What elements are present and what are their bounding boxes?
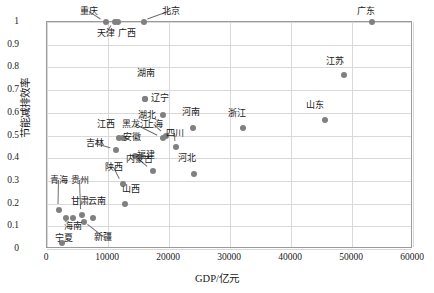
y-axis-tick-label: 0.4 bbox=[0, 152, 19, 162]
data-point-label: 江苏 bbox=[326, 56, 344, 66]
gridline-horizontal bbox=[47, 181, 411, 182]
gridline-horizontal bbox=[47, 67, 411, 68]
data-point-label: 重庆 bbox=[80, 6, 98, 16]
x-axis-tick-label: 0 bbox=[44, 252, 49, 262]
data-point[interactable] bbox=[142, 96, 148, 102]
scatter-chart: 节能减排效率 GDP/亿元 00.10.20.30.40.50.60.70.80… bbox=[0, 0, 434, 293]
x-axis-tick-label: 40000 bbox=[278, 252, 302, 262]
data-point-label: 黑龙江 bbox=[122, 119, 149, 129]
data-point-label: 江西 bbox=[97, 119, 115, 129]
gridline-vertical bbox=[47, 22, 48, 247]
gridline-horizontal bbox=[47, 136, 411, 137]
data-point[interactable] bbox=[90, 215, 96, 221]
data-point-label: 陕西 bbox=[105, 162, 123, 172]
data-point[interactable] bbox=[191, 171, 197, 177]
y-axis-tick-label: 0.1 bbox=[0, 220, 19, 230]
x-axis-tick-label: 30000 bbox=[217, 252, 241, 262]
data-point-label: 新疆 bbox=[94, 232, 112, 242]
data-point-label: 青海 bbox=[50, 175, 68, 185]
data-point-label: 吉林 bbox=[86, 138, 104, 148]
x-axis-title: GDP/亿元 bbox=[0, 270, 434, 285]
y-axis-tick-label: 0.5 bbox=[0, 130, 19, 140]
gridline-horizontal bbox=[47, 90, 411, 91]
gridline-vertical bbox=[413, 22, 414, 247]
data-point-label: 天津 bbox=[97, 28, 115, 38]
y-axis-tick-label: 0.9 bbox=[0, 39, 19, 49]
data-point-label: 山西 bbox=[122, 184, 140, 194]
gridline-horizontal bbox=[47, 45, 411, 46]
y-axis-tick-label: 0.2 bbox=[0, 198, 19, 208]
data-point[interactable] bbox=[113, 147, 119, 153]
gridline-vertical bbox=[230, 22, 231, 247]
data-point-label: 四川 bbox=[166, 128, 184, 138]
x-axis-tick-label: 20000 bbox=[156, 252, 180, 262]
data-point[interactable] bbox=[160, 112, 166, 118]
gridline-horizontal bbox=[47, 249, 411, 250]
data-point-label: 山东 bbox=[306, 100, 324, 110]
x-axis-tick-label: 10000 bbox=[95, 252, 119, 262]
data-point[interactable] bbox=[173, 144, 179, 150]
data-point-label: 安徽 bbox=[123, 132, 141, 142]
gridline-horizontal bbox=[47, 22, 411, 23]
data-point[interactable] bbox=[369, 19, 375, 25]
gridline-horizontal bbox=[47, 226, 411, 227]
data-point[interactable] bbox=[79, 212, 85, 218]
data-point[interactable] bbox=[141, 19, 147, 25]
gridline-vertical bbox=[291, 22, 292, 247]
data-point-label: 湖南 bbox=[137, 68, 155, 78]
data-point[interactable] bbox=[115, 19, 121, 25]
gridline-horizontal bbox=[47, 158, 411, 159]
y-axis-tick-label: 1 bbox=[0, 16, 19, 26]
y-axis-tick-label: 0.7 bbox=[0, 84, 19, 94]
x-axis-tick-label: 50000 bbox=[339, 252, 363, 262]
data-point-label: 河南 bbox=[182, 107, 200, 117]
data-point[interactable] bbox=[341, 72, 347, 78]
data-point-label: 北京 bbox=[162, 6, 180, 16]
gridline-vertical bbox=[108, 22, 109, 247]
data-point-label: 河北 bbox=[178, 153, 196, 163]
data-point[interactable] bbox=[150, 168, 156, 174]
data-point-label: 广西 bbox=[118, 28, 136, 38]
gridline-vertical bbox=[352, 22, 353, 247]
data-point[interactable] bbox=[240, 125, 246, 131]
y-axis-tick-label: 0.3 bbox=[0, 175, 19, 185]
data-point-label: 海南 bbox=[64, 221, 82, 231]
data-point[interactable] bbox=[322, 117, 328, 123]
data-point-label: 贵州 bbox=[71, 175, 89, 185]
data-point[interactable] bbox=[190, 125, 196, 131]
data-point[interactable] bbox=[122, 201, 128, 207]
data-point-label: 内蒙古 bbox=[126, 154, 153, 164]
x-axis-tick-label: 60000 bbox=[400, 252, 424, 262]
data-point[interactable] bbox=[56, 207, 62, 213]
y-axis-tick-label: 0.8 bbox=[0, 61, 19, 71]
data-point-label: 广东 bbox=[357, 6, 375, 16]
data-point-label: 辽宁 bbox=[151, 93, 169, 103]
y-axis-tick-label: 0 bbox=[0, 243, 19, 253]
plot-area bbox=[46, 21, 412, 248]
y-axis-tick-label: 0.6 bbox=[0, 107, 19, 117]
data-point-label: 甘肃 bbox=[71, 196, 89, 206]
data-point-label: 宁夏 bbox=[55, 233, 73, 243]
data-point-label: 浙江 bbox=[228, 108, 246, 118]
data-point-label: 云南 bbox=[88, 196, 106, 206]
